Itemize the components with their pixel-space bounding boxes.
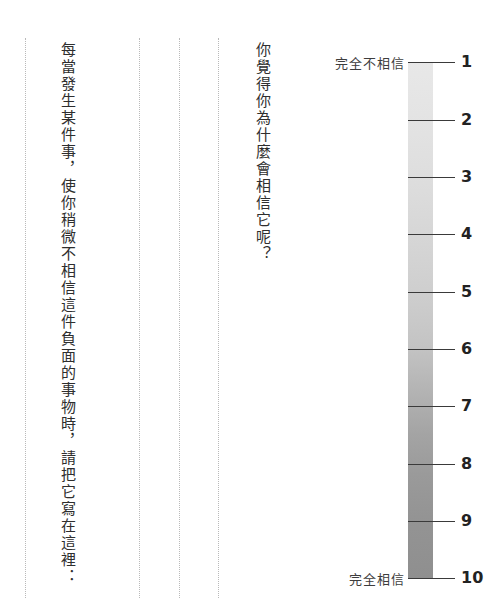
scale-tick-5 (408, 292, 455, 293)
scale-label-4: 4 (461, 226, 472, 242)
scale-label-3: 3 (461, 169, 472, 185)
writing-guide-rule (25, 38, 26, 598)
scale-tick-3 (408, 177, 455, 178)
scale-tick-10 (408, 578, 455, 579)
scale-tick-4 (408, 234, 455, 235)
scale-anchor-top: 完全不相信 (335, 53, 405, 72)
belief-rating-scale[interactable] (408, 62, 433, 578)
scale-gradient-bar (408, 62, 433, 578)
writing-guide-rule (218, 38, 219, 598)
scale-label-5: 5 (461, 284, 472, 300)
scale-label-6: 6 (461, 341, 472, 357)
scale-tick-9 (408, 521, 455, 522)
writing-guide-rule (179, 38, 180, 598)
scale-tick-8 (408, 464, 455, 465)
scale-tick-1 (408, 62, 455, 63)
scale-tick-2 (408, 120, 455, 121)
scale-label-7: 7 (461, 398, 472, 414)
worksheet-page: 每當發生某件事，使你稍微不相信這件負面的事物時，請把它寫在這裡： 你覺得你為什麼… (0, 0, 487, 614)
scale-tick-7 (408, 406, 455, 407)
scale-label-8: 8 (461, 456, 472, 472)
scale-anchor-bottom: 完全相信 (349, 569, 405, 588)
prompt-text-first: 每當發生某件事，使你稍微不相信這件負面的事物時，請把它寫在這裡： (57, 42, 76, 586)
scale-label-10: 10 (461, 570, 483, 586)
writing-guide-rule (139, 38, 140, 598)
scale-label-1: 1 (461, 54, 472, 70)
scale-label-2: 2 (461, 112, 472, 128)
prompt-text-second: 你覺得你為什麼會相信它呢？ (252, 42, 271, 263)
scale-tick-6 (408, 349, 455, 350)
scale-label-9: 9 (461, 513, 472, 529)
